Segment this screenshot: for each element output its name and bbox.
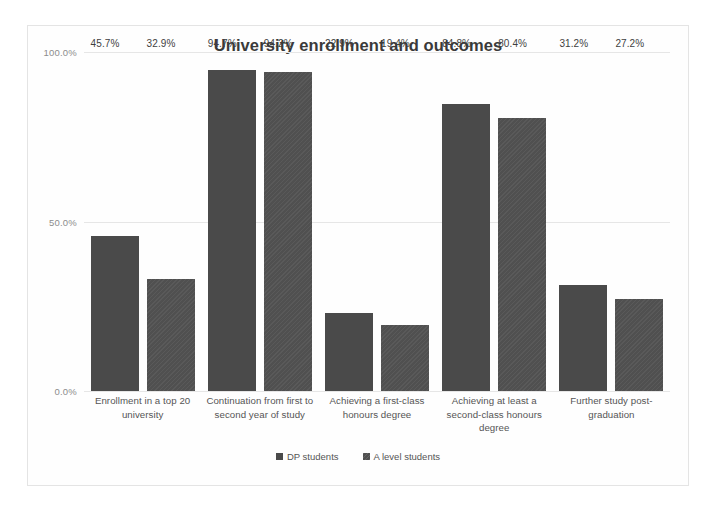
bar-value-label: 27.2% — [615, 38, 644, 49]
bar-item[interactable]: 27.2% — [615, 52, 663, 391]
category-axis-label: Continuation from first to second year o… — [201, 394, 318, 435]
category-axis: Enrollment in a top 20 universityContinu… — [84, 394, 670, 435]
legend-label: A level students — [374, 451, 441, 462]
bar-group: 31.2%27.2% — [553, 52, 670, 391]
bar-group: 22.9%19.4% — [318, 52, 435, 391]
legend-label: DP students — [287, 451, 339, 462]
bar-value-label: 45.7% — [91, 38, 120, 49]
legend-swatch-icon — [276, 453, 283, 460]
legend-swatch-icon — [363, 453, 370, 460]
bar-item[interactable]: 22.9% — [325, 52, 373, 391]
bar-value-label: 22.9% — [325, 38, 354, 49]
chart-legend: DP studentsA level students — [28, 451, 688, 462]
bar[interactable]: 94.2% — [264, 72, 312, 391]
bar[interactable]: 45.7% — [91, 236, 139, 391]
bar[interactable]: 32.9% — [147, 279, 195, 391]
y-axis-tick-label: 0.0% — [55, 386, 77, 397]
bar-value-label: 32.9% — [147, 38, 176, 49]
bar[interactable]: 80.4% — [498, 118, 546, 391]
bar-value-label: 80.4% — [498, 38, 527, 49]
y-axis-tick-label: 100.0% — [44, 47, 77, 58]
bar-item[interactable]: 94.2% — [264, 52, 312, 391]
category-axis-label: Achieving at least a second-class honour… — [436, 394, 553, 435]
bar-group: 45.7%32.9% — [84, 52, 201, 391]
bar-value-label: 19.4% — [381, 38, 410, 49]
bar-item[interactable]: 84.8% — [442, 52, 490, 391]
gridline — [84, 391, 670, 392]
bar[interactable]: 84.8% — [442, 104, 490, 391]
y-axis-tick-label: 50.0% — [49, 216, 77, 227]
bar-item[interactable]: 80.4% — [498, 52, 546, 391]
bar-value-label: 31.2% — [559, 38, 588, 49]
bar-item[interactable]: 45.7% — [91, 52, 139, 391]
category-axis-label: Further study post-graduation — [553, 394, 670, 435]
bar-groups: 45.7%32.9%94.7%94.2%22.9%19.4%84.8%80.4%… — [84, 52, 670, 391]
legend-item[interactable]: A level students — [363, 451, 441, 462]
bar[interactable]: 27.2% — [615, 299, 663, 391]
bar-item[interactable]: 19.4% — [381, 52, 429, 391]
chart-card: University enrollment and outcomes 0.0%5… — [27, 25, 689, 486]
legend-item[interactable]: DP students — [276, 451, 339, 462]
category-axis-label: Achieving a first-class honours degree — [318, 394, 435, 435]
bar-value-label: 94.2% — [264, 38, 293, 49]
bar[interactable]: 31.2% — [559, 285, 607, 391]
plot-area: 0.0%50.0%100.0% 45.7%32.9%94.7%94.2%22.9… — [84, 52, 670, 391]
bar-value-label: 94.7% — [208, 38, 237, 49]
bar[interactable]: 22.9% — [325, 313, 373, 391]
bar-value-label: 84.8% — [442, 38, 471, 49]
category-axis-label: Enrollment in a top 20 university — [84, 394, 201, 435]
bar-item[interactable]: 31.2% — [559, 52, 607, 391]
bar[interactable]: 94.7% — [208, 70, 256, 391]
bar-item[interactable]: 94.7% — [208, 52, 256, 391]
bar-group: 94.7%94.2% — [201, 52, 318, 391]
bar-item[interactable]: 32.9% — [147, 52, 195, 391]
bar-group: 84.8%80.4% — [436, 52, 553, 391]
bar[interactable]: 19.4% — [381, 325, 429, 391]
